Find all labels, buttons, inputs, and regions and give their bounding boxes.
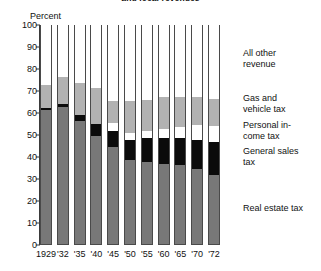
bar-40[interactable] bbox=[90, 25, 102, 245]
x-tick-label: '32 bbox=[57, 249, 69, 259]
legend-label-line1: General sales bbox=[243, 146, 321, 157]
bar-segment-sales bbox=[108, 131, 118, 148]
bar-1929[interactable] bbox=[40, 25, 52, 245]
chart-figure: and local revenues Percent 1009080706050… bbox=[0, 0, 321, 271]
legend-label-line2: vehicle tax bbox=[243, 104, 321, 115]
bar-segment-other bbox=[91, 24, 101, 88]
legend-item-other: All otherrevenue bbox=[243, 48, 321, 69]
bar-segment-real bbox=[192, 169, 202, 244]
bar-segment-income bbox=[125, 133, 135, 140]
bar-segment-other bbox=[125, 24, 135, 101]
y-tick-label: 80 bbox=[27, 64, 37, 74]
bar-50[interactable] bbox=[124, 25, 136, 245]
bar-segment-sales bbox=[91, 124, 101, 136]
bar-segment-income bbox=[142, 131, 152, 139]
bar-65[interactable] bbox=[174, 25, 186, 245]
legend-label-line1: All other bbox=[243, 48, 321, 59]
bar-segment-other bbox=[58, 24, 68, 77]
legend-item-sales: General salestax bbox=[243, 146, 321, 167]
bar-segment-sales bbox=[75, 115, 85, 121]
y-tick-label: 70 bbox=[27, 86, 37, 96]
bar-segment-real bbox=[75, 121, 85, 244]
bar-segment-other bbox=[75, 24, 85, 83]
x-tick-label: '40 bbox=[91, 249, 103, 259]
bar-segment-gas bbox=[75, 83, 85, 115]
x-tick-label: '50 bbox=[124, 249, 136, 259]
bar-segment-real bbox=[125, 160, 135, 244]
bar-32[interactable] bbox=[57, 25, 69, 245]
y-tick-label: 100 bbox=[22, 20, 37, 30]
y-tick-label: 10 bbox=[27, 218, 37, 228]
x-tick-label: 1929 bbox=[36, 249, 56, 259]
legend-label-line1: Real estate tax bbox=[243, 203, 321, 214]
bar-segment-income bbox=[108, 123, 118, 131]
bar-segment-gas bbox=[159, 97, 169, 129]
plot-area: 1009080706050403020100 1929'32'35'40'45'… bbox=[40, 25, 220, 245]
bar-segment-gas bbox=[192, 97, 202, 126]
bar-segment-sales bbox=[209, 142, 219, 175]
y-tick-label: 50 bbox=[27, 130, 37, 140]
legend-label-line2: tax bbox=[243, 157, 321, 168]
bar-segment-gas bbox=[108, 101, 118, 123]
legend-label-line2: revenue bbox=[243, 59, 321, 70]
bar-segment-income bbox=[209, 126, 219, 141]
legend-item-real: Real estate tax bbox=[243, 203, 321, 214]
bar-45[interactable] bbox=[107, 25, 119, 245]
bar-segment-other bbox=[108, 24, 118, 101]
y-tick-label: 20 bbox=[27, 196, 37, 206]
bar-segment-gas bbox=[91, 88, 101, 124]
bar-segment-other bbox=[159, 24, 169, 97]
bar-segment-income bbox=[175, 127, 185, 138]
bar-segment-real bbox=[108, 147, 118, 244]
bar-55[interactable] bbox=[141, 25, 153, 245]
bar-segment-gas bbox=[125, 101, 135, 133]
bar-segment-sales bbox=[159, 138, 169, 163]
bar-segment-real bbox=[41, 110, 51, 244]
bar-segment-real bbox=[209, 175, 219, 244]
legend-label-line1: Personal in- bbox=[243, 120, 321, 131]
x-tick-label: '65 bbox=[175, 249, 187, 259]
x-tick-label: '35 bbox=[74, 249, 86, 259]
bar-segment-income bbox=[159, 129, 169, 139]
bar-segment-real bbox=[142, 162, 152, 245]
chart-title-text: and local revenues bbox=[0, 0, 321, 3]
bar-72[interactable] bbox=[208, 25, 220, 245]
x-tick-label: '72 bbox=[208, 249, 220, 259]
x-tick-label: '55 bbox=[141, 249, 153, 259]
y-tick-label: 60 bbox=[27, 108, 37, 118]
x-tick-label: '70 bbox=[191, 249, 203, 259]
bar-segment-other bbox=[175, 24, 185, 97]
bar-segment-real bbox=[159, 164, 169, 244]
bar-segment-real bbox=[91, 136, 101, 244]
x-tick-label: '45 bbox=[107, 249, 119, 259]
bar-segment-other bbox=[209, 24, 219, 99]
bar-70[interactable] bbox=[191, 25, 203, 245]
x-tick-label: '60 bbox=[158, 249, 170, 259]
bar-segment-real bbox=[58, 107, 68, 245]
bar-segment-gas bbox=[175, 97, 185, 128]
bar-segment-sales bbox=[175, 138, 185, 164]
bar-segment-sales bbox=[41, 108, 51, 110]
bar-segment-gas bbox=[41, 85, 51, 108]
legend-label-line2: come tax bbox=[243, 131, 321, 142]
bar-segment-sales bbox=[142, 138, 152, 161]
bar-segment-other bbox=[41, 24, 51, 85]
legend-label-line1: Gas and bbox=[243, 93, 321, 104]
bar-segment-gas bbox=[58, 77, 68, 105]
chart-title-clipped: and local revenues bbox=[0, 0, 321, 7]
legend-item-income: Personal in-come tax bbox=[243, 120, 321, 141]
bar-segment-sales bbox=[58, 104, 68, 106]
bar-segment-real bbox=[175, 165, 185, 244]
y-tick-label: 90 bbox=[27, 42, 37, 52]
bar-35[interactable] bbox=[74, 25, 86, 245]
bar-60[interactable] bbox=[158, 25, 170, 245]
bar-segment-gas bbox=[209, 99, 219, 127]
bar-segment-other bbox=[192, 24, 202, 97]
y-tick-label: 40 bbox=[27, 152, 37, 162]
bar-segment-sales bbox=[125, 140, 135, 161]
legend-item-gas: Gas andvehicle tax bbox=[243, 93, 321, 114]
bar-segment-gas bbox=[142, 100, 152, 131]
bar-segment-other bbox=[142, 24, 152, 100]
bar-segment-income bbox=[192, 125, 202, 139]
bar-segment-sales bbox=[192, 140, 202, 170]
